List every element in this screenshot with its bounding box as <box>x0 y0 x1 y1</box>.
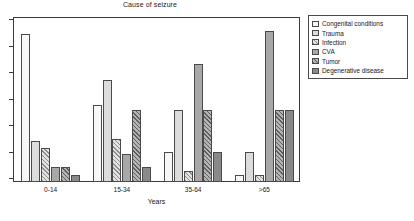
legend-label: Degenerative disease <box>322 66 384 75</box>
bar-infection-65 <box>255 175 264 182</box>
bar-group <box>235 18 294 182</box>
bar-congenital-1534 <box>93 105 102 182</box>
legend-item: Tumor <box>312 57 404 66</box>
bar-group <box>93 18 152 182</box>
legend-swatch-tumor <box>312 58 319 64</box>
legend-item: Congenital conditions <box>312 19 404 28</box>
bar-degenerative-3564 <box>213 152 222 182</box>
y-axis-tick <box>9 99 13 100</box>
legend-label: Trauma <box>322 29 344 38</box>
legend-swatch-congenital <box>312 21 319 27</box>
x-axis-label: 15-34 <box>114 186 131 193</box>
legend-swatch-degenerative <box>312 68 319 74</box>
bar-degenerative-1534 <box>142 167 151 182</box>
y-axis-tick <box>9 178 13 179</box>
legend-label: Tumor <box>322 57 340 66</box>
x-axis-label: 0-14 <box>44 186 57 193</box>
legend: Congenital conditionsTraumaInfectionCVAT… <box>308 15 408 79</box>
bar-tumor-014 <box>61 167 70 182</box>
bar-groups <box>14 18 299 182</box>
y-axis-tick <box>9 46 13 47</box>
bar-infection-014 <box>41 148 50 182</box>
y-axis-tick <box>9 19 13 20</box>
y-axis-tick <box>9 152 13 153</box>
bar-tumor-3564 <box>203 110 212 182</box>
x-axis-label: >65 <box>259 186 270 193</box>
bar-congenital-65 <box>235 175 244 182</box>
bar-cva-1534 <box>122 154 131 182</box>
bar-congenital-3564 <box>164 152 173 182</box>
bar-congenital-014 <box>21 34 30 182</box>
bar-trauma-014 <box>31 141 40 182</box>
bar-tumor-65 <box>275 110 284 182</box>
bar-group <box>21 18 80 182</box>
bar-degenerative-014 <box>71 175 80 182</box>
x-axis-tick-labels: 0-1415-3435-64>65 <box>13 186 300 197</box>
legend-label: Infection <box>322 38 346 47</box>
legend-swatch-cva <box>312 49 319 55</box>
bar-cva-3564 <box>194 64 203 182</box>
legend-item: Trauma <box>312 28 404 37</box>
legend-label: CVA <box>322 47 335 56</box>
chart-screenshot: Cause of seizure 0-1415-3435-64>65 Years… <box>0 0 414 221</box>
legend-swatch-infection <box>312 39 319 45</box>
y-axis-tick <box>9 125 13 126</box>
bar-tumor-1534 <box>132 110 141 182</box>
x-axis-title: Years <box>13 198 300 205</box>
x-axis-label: 35-64 <box>185 186 202 193</box>
legend-item: Infection <box>312 38 404 47</box>
legend-label: Congenital conditions <box>322 19 383 28</box>
bar-trauma-65 <box>245 152 254 182</box>
legend-item: CVA <box>312 47 404 56</box>
bar-cva-014 <box>51 167 60 182</box>
bar-trauma-1534 <box>103 80 112 182</box>
legend-item: Degenerative disease <box>312 66 404 75</box>
bar-degenerative-65 <box>285 110 294 182</box>
y-axis-tick <box>9 72 13 73</box>
bar-trauma-3564 <box>174 110 183 182</box>
chart-title: Cause of seizure <box>0 1 300 8</box>
legend-swatch-trauma <box>312 30 319 36</box>
bar-infection-3564 <box>184 171 193 182</box>
bar-infection-1534 <box>112 139 121 182</box>
bar-group <box>164 18 223 182</box>
bar-cva-65 <box>265 31 274 182</box>
